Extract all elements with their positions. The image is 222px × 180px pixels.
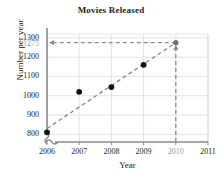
y-tick-label: 900 xyxy=(7,110,39,119)
x-tick-label: 2009 xyxy=(127,147,161,156)
projection-up-arrow-icon xyxy=(173,45,178,50)
data-point xyxy=(76,89,82,95)
y-tick-label: 800 xyxy=(7,129,39,138)
data-point xyxy=(44,129,50,135)
projected-point-marker xyxy=(173,40,178,45)
axes-group xyxy=(45,28,208,145)
x-tick-label: 2011 xyxy=(191,147,222,156)
y-tick-label: 1200 xyxy=(7,52,39,61)
y-tick-label: 1100 xyxy=(7,71,39,80)
x-tick-label: 2008 xyxy=(94,147,128,156)
x-tick-label: 2007 xyxy=(62,147,96,156)
x-tick-label: 2006 xyxy=(30,147,64,156)
chart-figure: Movies Released Number per year Year 800… xyxy=(0,0,222,180)
gridlines-group xyxy=(47,34,208,142)
x-tick-label: 2010 xyxy=(159,147,193,156)
y-tick-label-projected: 1275 xyxy=(7,39,39,48)
data-point xyxy=(109,84,115,90)
data-point xyxy=(141,62,147,68)
projection-guides-group xyxy=(49,40,178,142)
y-tick-label: 1000 xyxy=(7,91,39,100)
projection-left-arrow-icon xyxy=(49,40,54,45)
